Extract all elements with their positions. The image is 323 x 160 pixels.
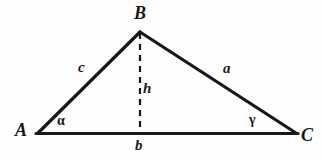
- vertex-label-b: B: [134, 4, 146, 22]
- vertex-label-a: A: [15, 121, 27, 139]
- side-c-line: [38, 32, 140, 133]
- angle-label-gamma: γ: [249, 113, 256, 127]
- side-label-c: c: [78, 60, 85, 75]
- triangle-diagram: B A C c a h b α γ: [0, 0, 323, 160]
- triangle-geometry-svg: [0, 0, 323, 160]
- side-a-line: [140, 32, 296, 133]
- angle-label-alpha: α: [57, 114, 65, 128]
- height-label-h: h: [143, 81, 151, 96]
- vertex-label-c: C: [301, 126, 313, 144]
- side-label-b: b: [135, 138, 143, 153]
- side-label-a: a: [223, 61, 231, 76]
